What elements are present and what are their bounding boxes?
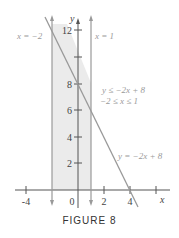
arrow-down-icon: [50, 200, 54, 206]
annotation-line-eq: y = −2x + 8: [117, 151, 163, 161]
tick-label: 4: [67, 132, 72, 143]
arrow-up-icon: [50, 15, 54, 21]
tick-label: 4: [128, 196, 133, 207]
figure-caption: FIGURE 8: [0, 215, 179, 226]
tick-label: -4: [22, 196, 30, 207]
y-axis-arrow-icon: [76, 18, 80, 24]
tick-label: 0: [70, 196, 75, 207]
y-axis-label: y: [69, 13, 75, 24]
arrow-down-icon: [89, 200, 93, 206]
annotation-ineq-2: −2 ≤ x ≤ 1: [100, 96, 138, 106]
tick-label: 12: [62, 25, 72, 36]
tick-label: 8: [67, 79, 72, 90]
x-axis-label: x: [159, 194, 165, 205]
annotation-ineq-1: y ≤ −2x + 8: [101, 85, 146, 95]
annotation-x-neg2: x = −2: [16, 31, 43, 41]
annotation-x-1: x = 1: [94, 31, 114, 41]
arrow-up-icon: [89, 15, 93, 21]
tick-label: 6: [67, 105, 72, 116]
tick-label: 2: [67, 158, 72, 169]
tick-label: 2: [102, 196, 107, 207]
chart: -4 0 2 4 x y 2 4 6 8 12 x = −2 x = 1 y ≤…: [0, 0, 179, 238]
